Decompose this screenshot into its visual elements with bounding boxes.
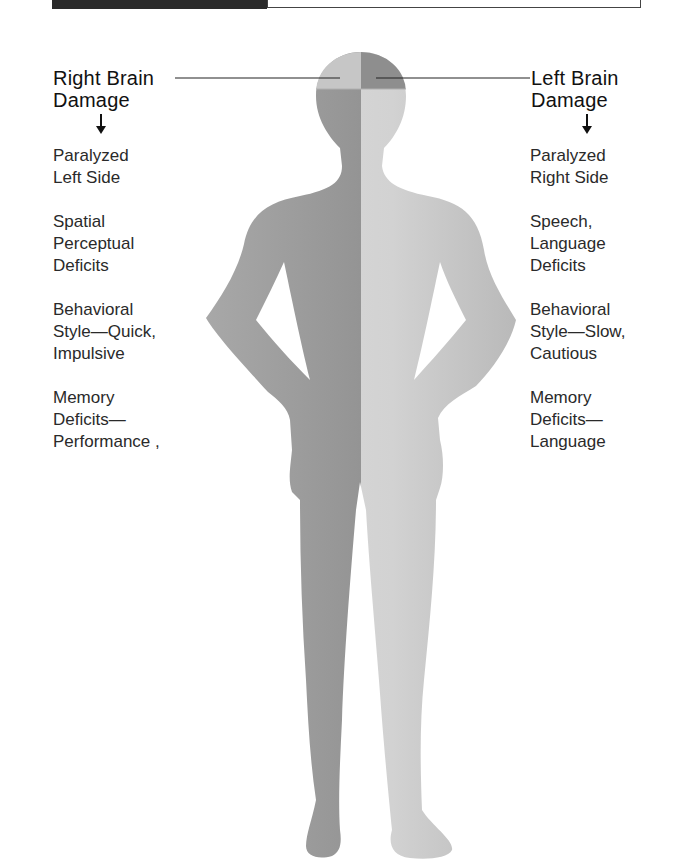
list-item: Memory Deficits— Language [530,387,625,453]
item-line: Deficits [53,255,160,277]
item-line: Memory [53,387,160,409]
item-line: Language [530,233,625,255]
heading-line: Damage [531,89,619,111]
item-line: Left Side [53,167,160,189]
item-line: Behavioral [530,299,625,321]
item-line: Language [530,431,625,453]
item-line: Right Side [530,167,625,189]
item-line: Deficits [530,255,625,277]
item-line: Paralyzed [530,145,625,167]
list-item: Paralyzed Right Side [530,145,625,189]
item-line: Paralyzed [53,145,160,167]
item-line: Cautious [530,343,625,365]
heading-line: Right Brain [53,67,154,89]
head-quadrants [310,50,412,89]
item-line: Perceptual [53,233,160,255]
item-line: Deficits— [53,409,160,431]
list-item: Behavioral Style—Slow, Cautious [530,299,625,365]
item-line: Impulsive [53,343,160,365]
heading-line: Left Brain [531,67,619,89]
item-line: Style—Quick, [53,321,160,343]
list-item: Paralyzed Left Side [53,145,160,189]
down-arrow-icon [100,114,102,128]
item-line: Speech, [530,211,625,233]
list-item: Speech, Language Deficits [530,211,625,277]
heading-line: Damage [53,89,154,111]
down-arrow-icon [586,114,588,128]
item-line: Behavioral [53,299,160,321]
item-line: Memory [530,387,625,409]
list-item: Spatial Perceptual Deficits [53,211,160,277]
right-brain-damage-heading: Right Brain Damage [53,67,154,111]
item-line: Spatial [53,211,160,233]
item-line: Deficits— [530,409,625,431]
figure-right-half [206,52,516,859]
left-brain-damage-heading: Left Brain Damage [531,67,619,111]
list-item: Memory Deficits— Performance , [53,387,160,453]
right-brain-deficits-list: Paralyzed Left Side Spatial Perceptual D… [53,145,160,475]
list-item: Behavioral Style—Quick, Impulsive [53,299,160,365]
item-line: Performance , [53,431,160,453]
item-line: Style—Slow, [530,321,625,343]
left-brain-deficits-list: Paralyzed Right Side Speech, Language De… [530,145,625,475]
